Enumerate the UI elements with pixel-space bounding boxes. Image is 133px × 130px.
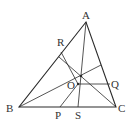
centroid-point (80, 75, 83, 78)
label-r: R (57, 36, 65, 48)
label-q: Q (111, 78, 119, 90)
label-p: P (55, 109, 61, 121)
label-a: A (82, 9, 90, 21)
line-a-s (78, 22, 86, 107)
label-s: S (75, 109, 81, 121)
triangle-diagram: A B C R O Q P S (0, 0, 133, 130)
point-o (77, 83, 79, 85)
label-o: O (67, 79, 75, 91)
label-c: C (118, 102, 125, 114)
line-b-ac (19, 65, 101, 107)
label-b: B (6, 102, 13, 114)
